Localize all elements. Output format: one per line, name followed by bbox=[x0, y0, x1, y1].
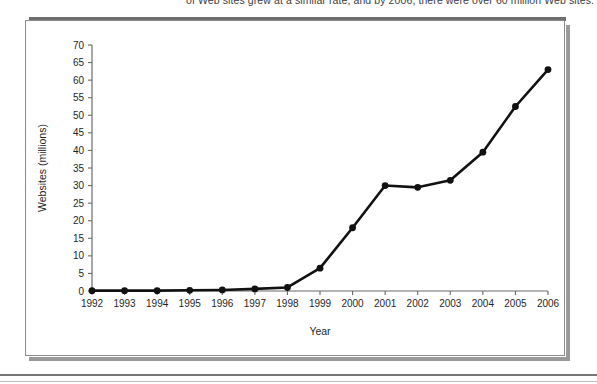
axis-lines bbox=[92, 45, 548, 291]
data-point-marker bbox=[251, 285, 258, 292]
y-tick-label: 10 bbox=[73, 250, 85, 261]
x-tick-label: 1992 bbox=[81, 298, 104, 309]
page-divider-rule-secondary bbox=[0, 381, 597, 382]
y-tick-label: 5 bbox=[78, 268, 84, 279]
figure-container: 0510152025303540455055606570 19921993199… bbox=[25, 20, 565, 356]
y-tick-label: 35 bbox=[73, 163, 85, 174]
page-divider-rule bbox=[0, 374, 597, 376]
y-tick-label: 60 bbox=[73, 75, 85, 86]
data-point-marker bbox=[349, 224, 356, 231]
y-axis-title: Websites (millions) bbox=[36, 124, 48, 212]
series-line-websites bbox=[92, 70, 548, 291]
data-point-marker bbox=[154, 287, 161, 294]
line-chart: 0510152025303540455055606570 19921993199… bbox=[26, 21, 566, 357]
page-caption-strip: of Web sites grew at a similar rate, and… bbox=[0, 0, 597, 9]
data-point-marker bbox=[382, 182, 389, 189]
series-markers bbox=[89, 66, 552, 294]
data-point-marker bbox=[317, 265, 324, 272]
y-tick-label: 65 bbox=[73, 57, 85, 68]
x-tick-label: 1993 bbox=[113, 298, 136, 309]
y-axis: 0510152025303540455055606570 bbox=[73, 40, 92, 297]
y-tick-label: 25 bbox=[73, 198, 85, 209]
chart-plot-area: 0510152025303540455055606570 19921993199… bbox=[26, 21, 566, 357]
data-point-marker bbox=[447, 177, 454, 184]
data-point-marker bbox=[219, 287, 226, 294]
x-tick-label: 1994 bbox=[146, 298, 169, 309]
x-tick-label: 1997 bbox=[244, 298, 267, 309]
y-tick-label: 70 bbox=[73, 40, 85, 51]
y-tick-label: 20 bbox=[73, 215, 85, 226]
y-tick-label: 0 bbox=[78, 286, 84, 297]
data-point-marker bbox=[284, 284, 291, 291]
x-tick-label: 1995 bbox=[179, 298, 202, 309]
data-point-marker bbox=[89, 287, 96, 294]
x-tick-label: 2002 bbox=[407, 298, 430, 309]
x-tick-label: 2004 bbox=[472, 298, 495, 309]
y-tick-label: 50 bbox=[73, 110, 85, 121]
y-tick-label: 15 bbox=[73, 233, 85, 244]
figure-shadow-right bbox=[566, 25, 570, 361]
page-caption-text: of Web sites grew at a similar rate, and… bbox=[186, 0, 594, 6]
y-tick-label: 55 bbox=[73, 92, 85, 103]
x-tick-label: 2000 bbox=[341, 298, 364, 309]
x-tick-label: 2005 bbox=[504, 298, 527, 309]
data-point-marker bbox=[121, 287, 128, 294]
data-point-marker bbox=[545, 66, 552, 73]
y-tick-label: 30 bbox=[73, 180, 85, 191]
x-tick-label: 2001 bbox=[374, 298, 397, 309]
x-tick-label: 2006 bbox=[537, 298, 560, 309]
data-point-marker bbox=[414, 184, 421, 191]
x-tick-label: 1996 bbox=[211, 298, 234, 309]
x-tick-label: 1998 bbox=[276, 298, 299, 309]
data-point-marker bbox=[479, 149, 486, 156]
x-axis-title: Year bbox=[309, 325, 331, 337]
figure-shadow-bottom bbox=[29, 357, 570, 361]
y-tick-label: 45 bbox=[73, 127, 85, 138]
data-point-marker bbox=[512, 103, 519, 110]
x-tick-label: 2003 bbox=[439, 298, 462, 309]
y-tick-label: 40 bbox=[73, 145, 85, 156]
data-point-marker bbox=[186, 287, 193, 294]
x-tick-label: 1999 bbox=[309, 298, 332, 309]
x-axis: 1992199319941995199619971998199920002001… bbox=[81, 291, 560, 309]
